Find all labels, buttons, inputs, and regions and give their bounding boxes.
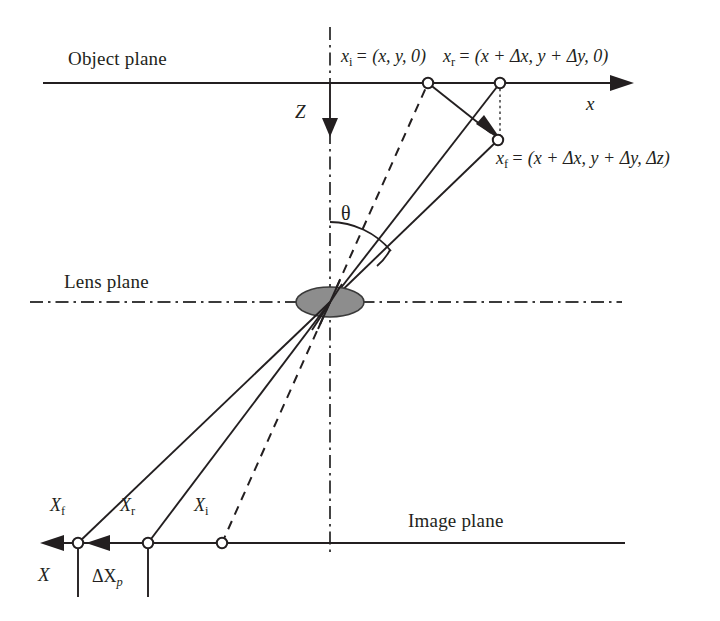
z-axis-label: Z: [295, 101, 306, 122]
object-point-xf-label: xf= (x + Δx, y + Δy, Δz): [495, 148, 670, 171]
Xr-subscript: r: [131, 504, 136, 518]
node-marker-Xr: [143, 538, 153, 548]
delta-xp-subscript: p: [116, 575, 123, 589]
ray-lens-to-xr: [330, 83, 500, 302]
image-point-Xf-label: Xf: [49, 495, 66, 518]
delta-xp-label: ΔXp: [92, 566, 123, 589]
delta-xp-symbol: ΔX: [92, 566, 117, 586]
image-plane-label: Image plane: [408, 510, 504, 531]
theta-label: θ: [341, 202, 351, 224]
delta-xp-arrowhead: [86, 535, 110, 551]
xi-symbol: x: [340, 46, 349, 66]
xi-subscript: i: [349, 55, 353, 69]
lens-plane-label: Lens plane: [64, 271, 149, 292]
ray-lens-to-xi-dashed: [330, 83, 428, 302]
image-point-Xi-label: Xi: [193, 495, 209, 518]
xr-value: = (x + Δx, y + Δy, 0): [458, 46, 608, 67]
xr-symbol: x: [442, 46, 451, 66]
z-axis-arrowhead: [322, 118, 338, 137]
xi-value: = (x, y, 0): [355, 46, 426, 67]
object-plane-label: Object plane: [68, 48, 167, 69]
object-point-xi-label: xi= (x, y, 0): [340, 46, 426, 69]
node-marker-xr: [495, 78, 505, 88]
x-axis-label: x: [585, 93, 595, 114]
xr-subscript: r: [451, 55, 456, 69]
Xi-subscript: i: [205, 504, 209, 518]
xf-symbol: x: [495, 148, 504, 168]
xf-value: = (x + Δx, y + Δy, Δz): [511, 148, 670, 169]
diagram-canvas: Object plane x Z xi= (x, y, 0) xr= (x + …: [0, 0, 720, 621]
object-point-xr-label: xr= (x + Δx, y + Δy, 0): [442, 46, 608, 69]
image-point-Xr-label: Xr: [119, 495, 136, 518]
X-axis-arrowhead: [40, 535, 64, 551]
ray-lens-to-xf: [330, 140, 498, 302]
node-marker-Xi: [217, 538, 227, 548]
node-marker-Xf: [73, 538, 83, 548]
node-marker-xf: [493, 135, 503, 145]
theta-angle-arc-inner: [377, 250, 390, 266]
xf-subscript: f: [504, 157, 509, 171]
node-marker-xi: [423, 78, 433, 88]
x-axis-arrowhead: [610, 75, 634, 91]
optics-diagram: Object plane x Z xi= (x, y, 0) xr= (x + …: [0, 0, 720, 621]
X-axis-label: X: [37, 564, 51, 585]
Xf-subscript: f: [61, 504, 66, 518]
